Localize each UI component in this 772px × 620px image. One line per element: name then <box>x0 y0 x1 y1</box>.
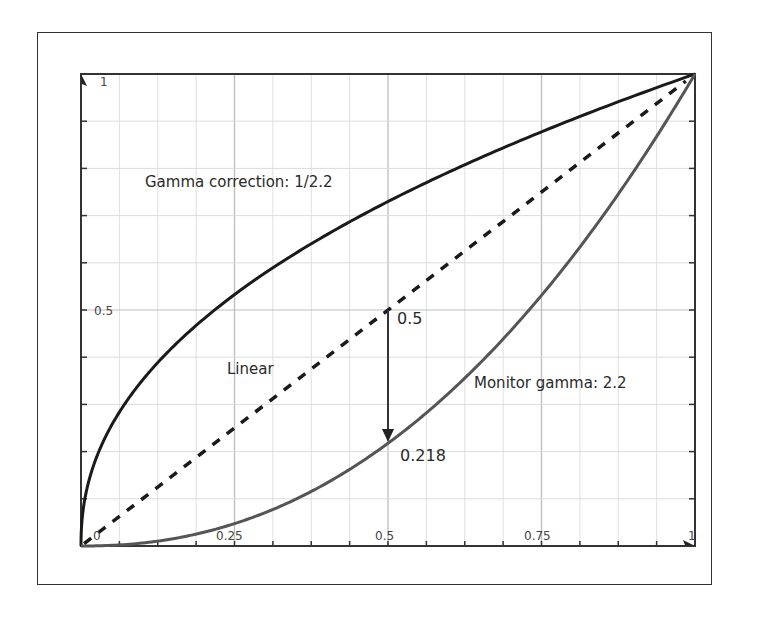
x-tick-label-0.75: 0.75 <box>524 529 551 543</box>
annotation-0.5: 0.5 <box>397 309 422 328</box>
gamma-correction-label: Gamma correction: 1/2.2 <box>145 173 333 191</box>
monitor-gamma-label: Monitor gamma: 2.2 <box>474 374 627 392</box>
y-tick-label-0.5: 0.5 <box>94 304 113 318</box>
x-tick-label-0.25: 0.25 <box>216 529 243 543</box>
x-tick-label-0.5: 0.5 <box>375 529 394 543</box>
annotation-0.218: 0.218 <box>400 446 446 465</box>
linear-label: Linear <box>227 360 274 378</box>
x-tick-label-0: 0 <box>93 529 101 543</box>
linear-line <box>84 81 686 544</box>
gamma-chart: 0 0.25 0.5 0.75 1 0.5 1 Gamma correction… <box>0 0 772 620</box>
x-tick-label-1: 1 <box>688 529 696 543</box>
y-tick-label-1: 1 <box>100 75 108 89</box>
